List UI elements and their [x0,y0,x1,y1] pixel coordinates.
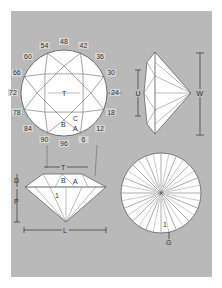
facet-label-b: B [61,121,66,128]
table-label: T [62,90,67,97]
angle-label: 18 [107,109,115,116]
profile-view: T B A 1 D P L [14,145,106,234]
facet-label-a: A [73,125,78,132]
angle-label: 84 [24,125,32,132]
l-label: L [63,227,67,234]
angle-label: 36 [96,53,104,60]
angle-label: 96 [60,140,68,147]
one-label: 1 [163,221,167,228]
angle-label: 42 [80,42,88,49]
angle-label: 90 [41,136,49,143]
u-label: U [136,90,141,97]
d-label: D [14,177,19,184]
bottom-view: 1 G [121,153,201,246]
g-label: G [166,239,171,246]
w-label: W [197,90,204,97]
b-label: B [61,177,66,184]
top-view: T C B A 4842363024181269690847872666054 [8,38,122,147]
a-label: A [73,178,78,185]
t-label: T [61,164,66,171]
angle-label: 66 [13,69,21,76]
side-view: U W [135,52,204,135]
angle-label: 60 [24,53,32,60]
angle-label: 78 [13,109,21,116]
angle-label: 72 [9,89,17,96]
p-label: P [14,198,19,205]
gem-diagram: T C B A 4842363024181269690847872666054 … [0,0,222,288]
angle-label: 48 [60,38,68,45]
angle-label: 30 [107,69,115,76]
angle-label: 12 [96,125,104,132]
angle-label: 54 [41,42,49,49]
angle-label: 24 [111,89,119,96]
one-label: 1 [55,192,59,199]
angle-label: 6 [82,136,86,143]
facet-label-c: C [73,115,78,122]
